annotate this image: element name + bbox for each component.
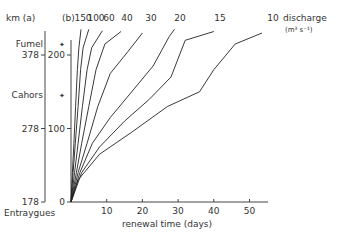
x-tick-label: 20 — [137, 206, 149, 216]
legend-units: (m³ s⁻¹) — [285, 26, 313, 34]
series-label-60: 60 — [103, 13, 115, 23]
series-label-40: 40 — [121, 13, 133, 23]
y-tick-label-a: 178 — [22, 197, 39, 207]
series-label-15: 15 — [214, 13, 225, 23]
series-label-20: 20 — [174, 13, 186, 23]
series-label-100: 100 — [87, 13, 104, 23]
renewal-time-chart: 1020304050renewal time (days)01002001782… — [0, 0, 337, 235]
x-tick-label: 10 — [101, 206, 113, 216]
x-tick-label: 50 — [244, 206, 256, 216]
y-tick-label-a: 378 — [22, 50, 39, 60]
place-marker: ✦ — [59, 41, 65, 49]
x-tick-label: 30 — [172, 206, 184, 216]
place-label: Cahors — [12, 90, 44, 100]
legend-title: discharge — [283, 13, 327, 23]
y-axis-a-title: km (a) — [6, 13, 35, 23]
y-tick-label-b: 0 — [59, 197, 65, 207]
x-axis-title: renewal time (days) — [122, 219, 212, 229]
y-tick-label-b: 200 — [48, 50, 65, 60]
place-label: Fumel — [16, 39, 43, 49]
curves — [71, 29, 262, 202]
x-tick-label: 40 — [208, 206, 220, 216]
y-axis-b-title: (b) — [62, 13, 75, 23]
labels: 1020304050renewal time (days)01002001782… — [4, 13, 327, 229]
series-line-20 — [71, 29, 175, 202]
y-tick-label-a: 278 — [22, 124, 39, 134]
y-tick-label-b: 100 — [48, 124, 65, 134]
series-label-10: 10 — [267, 13, 279, 23]
series-label-30: 30 — [145, 13, 157, 23]
place-label: Entraygues — [4, 208, 55, 218]
place-marker: ✦ — [59, 92, 65, 100]
series-line-100 — [71, 29, 89, 202]
series-line-15 — [71, 32, 214, 203]
